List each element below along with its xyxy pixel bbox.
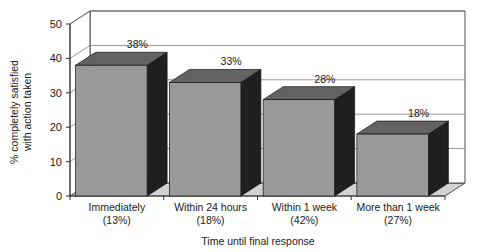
y-axis-title-line1: % completely satisfied xyxy=(8,60,20,164)
y-tick-label: 0 xyxy=(56,190,62,202)
bar-column xyxy=(263,87,355,196)
x-axis-title: Time until final response xyxy=(201,235,315,247)
bar-chart-3d: 01020304050 38%33%28%18% Immediately(13%… xyxy=(0,0,481,252)
y-axis-tick-labels: 01020304050 xyxy=(50,18,62,202)
bar-front-face xyxy=(76,65,148,196)
bar-column xyxy=(76,52,168,196)
x-category-label: More than 1 week xyxy=(356,201,440,213)
x-axis-category-labels: Immediately(13%)Within 24 hours(18%)With… xyxy=(89,201,441,226)
x-category-sublabel: (13%) xyxy=(103,214,131,226)
chart-container: 01020304050 38%33%28%18% Immediately(13%… xyxy=(0,0,481,252)
y-tick-label: 30 xyxy=(50,87,62,99)
bar-column xyxy=(169,69,261,196)
x-category-sublabel: (27%) xyxy=(384,214,412,226)
bar-side-face xyxy=(241,69,261,196)
y-tick-label: 10 xyxy=(50,156,62,168)
y-axis xyxy=(66,24,70,196)
y-axis-title-line2: with action taken xyxy=(21,73,33,152)
x-category-label: Within 24 hours xyxy=(174,201,247,213)
bar-side-face xyxy=(147,52,167,196)
bar-value-label: 33% xyxy=(221,55,242,67)
x-category-label: Immediately xyxy=(89,201,146,213)
y-tick-label: 40 xyxy=(50,52,62,64)
bar-value-label: 38% xyxy=(127,38,148,50)
bar-front-face xyxy=(263,100,335,196)
y-tick-label: 20 xyxy=(50,121,62,133)
x-axis xyxy=(70,196,445,200)
bar-value-label: 18% xyxy=(408,107,429,119)
bar-front-face xyxy=(169,82,241,196)
bar-front-face xyxy=(357,134,429,196)
x-category-label: Within 1 week xyxy=(272,201,338,213)
bar-column xyxy=(357,121,449,196)
bar-value-label: 28% xyxy=(314,73,335,85)
x-category-sublabel: (18%) xyxy=(197,214,225,226)
x-category-sublabel: (42%) xyxy=(290,214,318,226)
bar-side-face xyxy=(335,87,355,196)
y-axis-title: % completely satisfied with action taken xyxy=(8,60,33,164)
y-tick-label: 50 xyxy=(50,18,62,30)
